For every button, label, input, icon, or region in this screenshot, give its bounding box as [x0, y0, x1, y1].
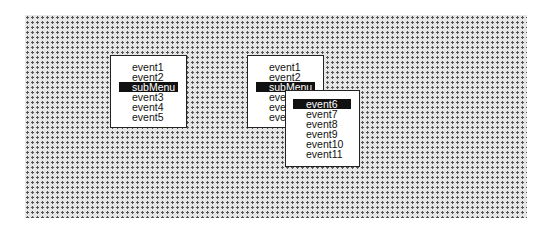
menu-item-event11[interactable]: event11: [293, 149, 351, 159]
popup-menu-closed-submenu: event1 event2 subMenu event3 event4 even…: [110, 55, 187, 128]
submenu-popup: event6 event7 event8 event9 event10 even…: [285, 90, 360, 167]
menu-item-event5[interactable]: event5: [119, 112, 178, 122]
